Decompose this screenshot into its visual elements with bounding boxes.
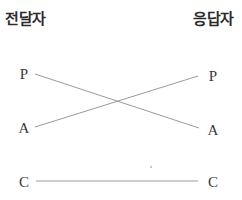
transaction-links — [0, 0, 242, 200]
stray-dot — [150, 166, 152, 168]
